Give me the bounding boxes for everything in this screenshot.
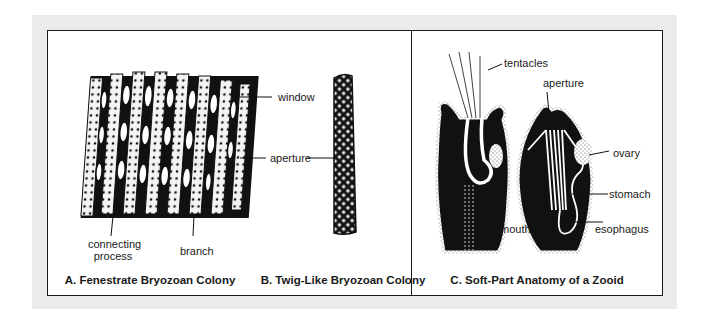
label-branch: branch: [180, 245, 214, 257]
caption-panel-c: C. Soft-Part Anatomy of a Zooid: [450, 274, 623, 286]
label-connecting: connecting: [88, 238, 138, 250]
label-esophagus: esophagus: [595, 223, 649, 235]
caption-panel-b: B. Twig-Like Bryozoan Colony: [261, 274, 426, 286]
label-stomach: stomach: [609, 188, 651, 200]
caption-panel-a: A. Fenestrate Bryozoan Colony: [65, 274, 236, 286]
label-aperture-a: aperture: [270, 152, 311, 164]
label-aperture-c: aperture: [543, 77, 584, 89]
label-tentacles: tentacles: [504, 57, 548, 69]
label-ovary: ovary: [613, 147, 640, 159]
label-window: window: [278, 91, 315, 103]
label-process: process: [88, 250, 138, 262]
twig-colony-drawing: [334, 74, 356, 234]
label-mouth: mouth: [500, 223, 531, 235]
label-connecting-process: connecting process: [88, 238, 138, 262]
